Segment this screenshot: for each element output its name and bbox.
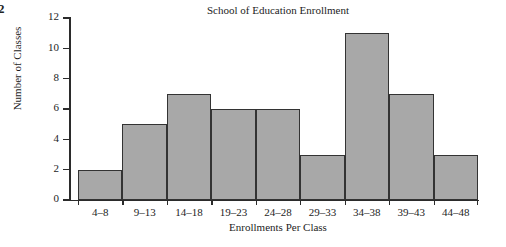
y-axis-tick: 10 (63, 48, 70, 50)
histogram-bar (389, 94, 433, 200)
y-axis-tick: 0 (63, 199, 70, 201)
y-axis-tick-label: 12 (48, 10, 59, 23)
histogram-figure: 2 School of Education Enrollment Number … (0, 0, 506, 247)
histogram-bar (167, 94, 211, 200)
x-axis-category-label: 9–13 (122, 206, 166, 219)
x-axis-title: Enrollments Per Class (78, 221, 478, 234)
y-axis-tick: 4 (63, 139, 70, 141)
y-axis-title: Number of Classes (11, 9, 24, 129)
histogram-bar (211, 109, 255, 200)
y-axis-tick-label: 8 (54, 71, 60, 84)
x-axis-tick-slot (122, 200, 166, 205)
y-axis-tick-label: 10 (48, 41, 59, 54)
histogram-bar (300, 155, 344, 201)
bar-series (78, 18, 478, 200)
x-axis-tick (211, 200, 212, 205)
y-axis-tick-label: 0 (54, 192, 60, 205)
histogram-bar (434, 155, 478, 201)
x-axis-tick-slot (78, 200, 122, 205)
x-axis-category-label: 19–23 (211, 206, 255, 219)
x-axis-tick (389, 200, 390, 205)
bar-slot (300, 18, 344, 200)
x-axis-tick-slot (345, 200, 389, 205)
histogram-bar (256, 109, 300, 200)
bar-slot (389, 18, 433, 200)
bar-slot (434, 18, 478, 200)
x-axis-ticks (78, 200, 478, 205)
bar-slot (345, 18, 389, 200)
bar-slot (211, 18, 255, 200)
x-axis-category-label: 34–38 (345, 206, 389, 219)
histogram-bar (78, 170, 122, 200)
y-axis-tick-label: 6 (54, 101, 60, 114)
y-axis-tick-label: 2 (54, 162, 60, 175)
y-axis-tick: 2 (63, 169, 70, 171)
y-axis-tick-label: 4 (54, 132, 60, 145)
bar-slot (78, 18, 122, 200)
x-axis-tick (167, 200, 168, 205)
x-axis-tick-slot (434, 200, 478, 205)
x-axis-tick (345, 200, 346, 205)
x-axis-tick-slot (256, 200, 300, 205)
page-number: 2 (0, 2, 4, 15)
x-axis-category-label: 39–43 (389, 206, 433, 219)
x-axis-category-label: 24–28 (256, 206, 300, 219)
x-axis-tick (300, 200, 301, 205)
x-axis-tick-slot (211, 200, 255, 205)
x-axis-category-label: 44–48 (434, 206, 478, 219)
histogram-bar (122, 124, 166, 200)
x-axis-tick-slot (300, 200, 344, 205)
x-axis-category-label: 29–33 (300, 206, 344, 219)
x-axis-tick (434, 200, 435, 205)
y-axis-tick: 12 (63, 17, 70, 19)
chart-title: School of Education Enrollment (78, 4, 478, 17)
x-axis-category-label: 14–18 (167, 206, 211, 219)
x-axis-tick (78, 200, 79, 205)
x-axis-labels: 4–89–1314–1819–2324–2829–3334–3839–4344–… (78, 206, 478, 219)
x-axis-tick (122, 200, 123, 205)
x-axis-tick (256, 200, 257, 205)
x-axis-tick-slot (389, 200, 433, 205)
histogram-bar (345, 33, 389, 200)
x-axis-tick (477, 200, 478, 205)
bar-slot (167, 18, 211, 200)
y-axis-tick: 6 (63, 108, 70, 110)
bar-slot (256, 18, 300, 200)
y-axis-tick: 8 (63, 78, 70, 80)
x-axis-category-label: 4–8 (78, 206, 122, 219)
x-axis-tick-slot (167, 200, 211, 205)
bar-slot (122, 18, 166, 200)
